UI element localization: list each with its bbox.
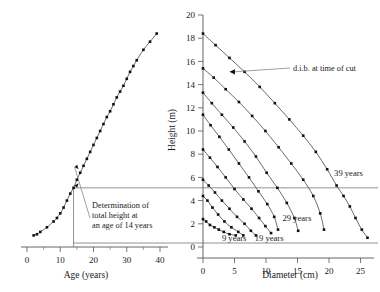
data-point <box>86 158 89 161</box>
left-x-tick-label: 0 <box>25 255 30 265</box>
data-point <box>232 126 235 129</box>
data-point <box>202 178 205 181</box>
data-point <box>112 103 115 106</box>
data-point <box>228 57 231 60</box>
data-point <box>52 220 55 223</box>
data-point <box>209 156 212 159</box>
data-point <box>323 228 326 231</box>
data-point <box>265 171 268 174</box>
data-point <box>264 225 267 228</box>
left-x-tick-label: 30 <box>122 255 132 265</box>
data-point <box>202 218 205 221</box>
right-y-tick-label: 20 <box>186 10 196 20</box>
right-x-tick-label: 5 <box>232 266 237 276</box>
taper-curve-3 <box>203 150 271 234</box>
data-point <box>129 71 132 74</box>
data-point <box>218 136 221 139</box>
data-point <box>217 213 220 216</box>
data-point <box>213 226 216 229</box>
right-y-tick-label: 8 <box>191 149 196 159</box>
data-point <box>248 176 251 179</box>
data-point <box>238 162 241 165</box>
data-point <box>302 178 305 181</box>
data-point <box>59 212 62 215</box>
right-y-tick-label: 2 <box>191 219 196 229</box>
right-panel-stem-taper: 0246810121416182005101520259 years19 yea… <box>186 10 374 276</box>
right-x-tick-label: 0 <box>201 266 206 276</box>
data-point <box>142 49 145 52</box>
data-point <box>315 151 318 154</box>
data-point <box>205 220 208 223</box>
two-panel-tree-growth-figure: 010203040 0246810121416182005101520259 y… <box>0 0 380 292</box>
right-y-tick-label: 6 <box>191 173 196 183</box>
data-point <box>72 187 75 190</box>
data-point <box>206 199 209 202</box>
right-y-axis-title: Height (m) <box>167 109 178 151</box>
data-point <box>125 78 128 81</box>
data-point <box>361 228 364 231</box>
data-point <box>354 217 357 220</box>
data-point <box>202 113 205 116</box>
data-point <box>242 234 245 237</box>
data-point <box>102 123 105 126</box>
data-point <box>109 110 112 113</box>
left-x-tick-label: 40 <box>156 255 166 265</box>
data-point <box>209 224 212 227</box>
data-point <box>202 67 205 70</box>
data-point <box>56 217 59 220</box>
data-point <box>66 199 69 202</box>
data-point <box>277 228 280 231</box>
data-point <box>257 190 260 193</box>
data-point <box>69 192 72 195</box>
data-point <box>217 228 220 231</box>
data-point <box>211 206 214 209</box>
data-point <box>214 191 217 194</box>
data-point <box>224 88 227 91</box>
series-label-39-years: 39 years <box>334 168 364 178</box>
dib-arrow-head <box>229 69 235 74</box>
data-point <box>202 91 205 94</box>
data-point <box>221 199 224 202</box>
data-point <box>149 40 152 43</box>
data-point <box>243 140 246 143</box>
data-point <box>46 226 49 229</box>
determination-note-line3: an age of 14 years <box>92 221 152 230</box>
data-point <box>115 96 118 99</box>
data-point <box>349 205 352 208</box>
data-point <box>212 76 215 79</box>
data-point <box>286 202 289 205</box>
data-point <box>82 165 85 168</box>
series-label-29-years: 29 years <box>282 213 312 223</box>
data-point <box>228 207 231 210</box>
data-point <box>221 113 224 116</box>
data-point <box>277 146 280 149</box>
data-point <box>366 236 369 239</box>
dib-note-label: d.i.b. at time of cut <box>293 64 357 73</box>
data-point <box>209 124 212 127</box>
data-point <box>273 216 276 219</box>
data-point <box>62 206 65 209</box>
data-point <box>258 86 261 89</box>
determination-leader <box>75 167 90 218</box>
data-point <box>312 195 315 198</box>
data-point <box>96 137 99 140</box>
data-point <box>250 207 253 210</box>
data-point <box>202 195 205 198</box>
data-point <box>122 84 125 87</box>
data-point <box>214 44 217 47</box>
data-point <box>202 32 205 35</box>
data-point <box>39 231 42 234</box>
data-point <box>202 148 205 151</box>
data-point <box>250 229 253 232</box>
data-point <box>266 203 269 206</box>
right-y-tick-label: 10 <box>186 126 196 136</box>
data-point <box>264 130 267 133</box>
data-point <box>233 188 236 191</box>
determination-note-line1: Determination of <box>92 201 149 210</box>
data-point <box>106 116 109 119</box>
data-point <box>255 155 258 158</box>
data-point <box>237 231 240 234</box>
dib-leader-line <box>233 68 290 72</box>
left-x-tick-label: 10 <box>56 255 66 265</box>
data-point <box>89 151 92 154</box>
